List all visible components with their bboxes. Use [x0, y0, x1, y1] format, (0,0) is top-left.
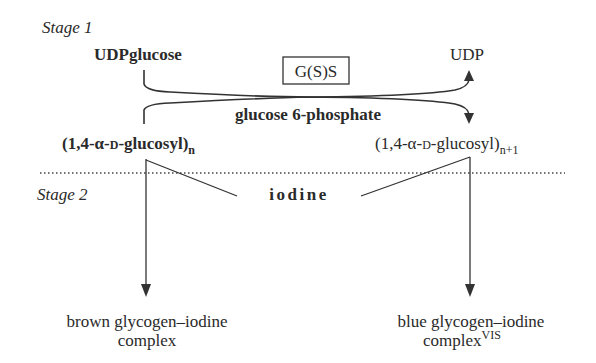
activator-label: glucose 6-phosphate [235, 105, 381, 124]
stage-1-label: Stage 1 [42, 18, 93, 37]
blue-complex-line2: complexVIS [423, 328, 501, 350]
stage-2-label: Stage 2 [37, 185, 88, 204]
enzyme-box: G(S)S [283, 57, 349, 84]
blue-complex-line1: blue glycogen–iodine [398, 312, 545, 331]
arrow-to-udp-icon [464, 70, 474, 81]
primer-label: (1,4-α-D-glucosyl)n [62, 134, 195, 157]
brown-complex-line2: complex [118, 331, 177, 350]
iodine-arrows [141, 157, 475, 297]
enzyme-label: G(S)S [295, 62, 338, 81]
udp-label: UDP [450, 45, 484, 64]
brown-complex-line1: brown glycogen–iodine [67, 312, 228, 331]
arrow-to-brown-complex-icon [141, 284, 151, 297]
iodine-label: iodine [269, 185, 328, 204]
arrow-to-elongated-icon [464, 113, 474, 124]
arrow-to-blue-complex-icon [465, 284, 475, 297]
glycogen-synthase-assay-diagram: Stage 1 Stage 2 UDPglucose UDP G(S)S glu… [0, 0, 596, 363]
udpglucose-label: UDPglucose [94, 45, 182, 64]
elongated-primer-label: (1,4-α-D-glucosyl)n+1 [375, 134, 519, 157]
